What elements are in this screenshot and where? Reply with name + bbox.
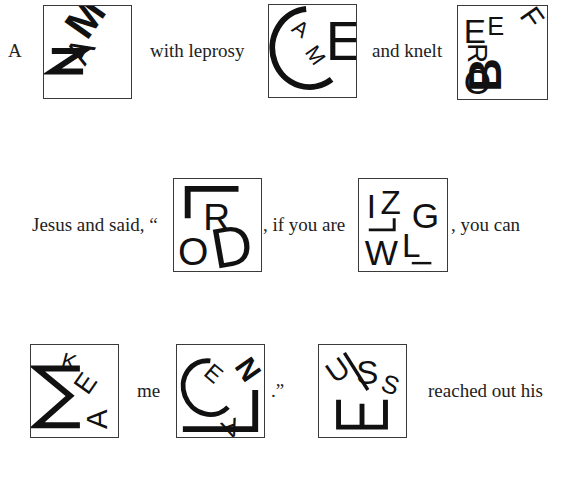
letter-d: D	[206, 212, 257, 271]
letter-a: A	[80, 409, 113, 429]
letter-a: A	[218, 413, 244, 437]
letter-z: Z	[381, 184, 401, 221]
letter-i: I	[367, 188, 376, 225]
text-you-can: , you can	[451, 214, 520, 236]
text-closing-quote: .”	[271, 380, 284, 402]
letter-u: U	[319, 350, 355, 389]
puzzle-box-before: E E F R O B	[457, 5, 548, 100]
puzzle-box-clean: E N A	[176, 344, 265, 438]
letter-n: N	[229, 351, 264, 387]
letter-w: W	[365, 233, 399, 271]
letter-o: O	[178, 230, 208, 271]
letter-l: L	[402, 227, 420, 264]
letter-e	[339, 400, 386, 427]
puzzle-box-came: A M E	[268, 4, 357, 98]
puzzle-box-make: K E A	[30, 344, 119, 438]
text-me: me	[137, 380, 160, 402]
puzzle-box-jesus: U S S	[318, 344, 407, 438]
text-reached-out-his: reached out his	[428, 380, 543, 402]
letter-s: S	[356, 354, 378, 391]
letter-s: S	[378, 368, 404, 400]
text-if-you-are: , if you are	[263, 214, 345, 236]
text-a: A	[8, 40, 22, 62]
letter-b: B	[459, 58, 511, 92]
letter-f: F	[514, 6, 547, 34]
letter-e: E	[487, 12, 504, 40]
letter-a: A	[288, 15, 314, 43]
text-with-leprosy: with leprosy	[150, 40, 244, 62]
puzzle-box-willing: I Z G W L	[358, 178, 448, 272]
puzzle-box-man: M A	[43, 5, 132, 99]
text-and-knelt: and knelt	[372, 40, 442, 62]
letter-e: E	[326, 10, 356, 72]
text-jesus-and-said: Jesus and said, “	[32, 214, 158, 236]
puzzle-box-lord: R O D	[173, 178, 262, 272]
